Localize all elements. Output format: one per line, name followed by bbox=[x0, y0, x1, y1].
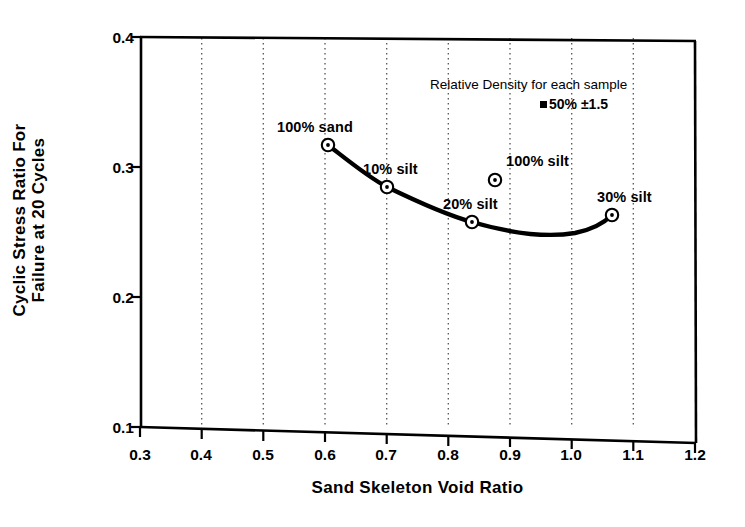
plot-area bbox=[0, 0, 745, 527]
chart-figure: Cyclic Stress Ratio For Failure at 20 Cy… bbox=[0, 0, 745, 527]
data-point-10-silt[interactable] bbox=[381, 181, 393, 193]
axis-right bbox=[695, 41, 696, 443]
axis-frame bbox=[140, 37, 696, 443]
annotation-100-sand: 100% sand bbox=[277, 119, 353, 135]
axis-ticks bbox=[131, 37, 695, 453]
data-point-100-silt[interactable] bbox=[489, 174, 501, 186]
data-point-100-sand[interactable] bbox=[322, 139, 334, 151]
relative-density-note-line1: Relative Density for each sample bbox=[430, 77, 627, 92]
axis-bottom bbox=[140, 427, 696, 443]
axis-top bbox=[140, 37, 696, 41]
annotation-100-silt: 100% silt bbox=[506, 153, 569, 169]
annotation-20-silt: 20% silt bbox=[443, 196, 498, 212]
data-point-30-silt[interactable] bbox=[606, 209, 618, 221]
data-point-20-silt[interactable] bbox=[466, 216, 478, 228]
relative-density-note-value: 50% ±1.5 bbox=[549, 96, 608, 112]
filled-square-icon bbox=[540, 101, 547, 108]
annotation-30-silt: 30% silt bbox=[597, 189, 652, 205]
relative-density-note-line2: 50% ±1.5 bbox=[540, 96, 608, 112]
annotation-10-silt: 10% silt bbox=[363, 161, 418, 177]
data-markers bbox=[322, 139, 618, 228]
